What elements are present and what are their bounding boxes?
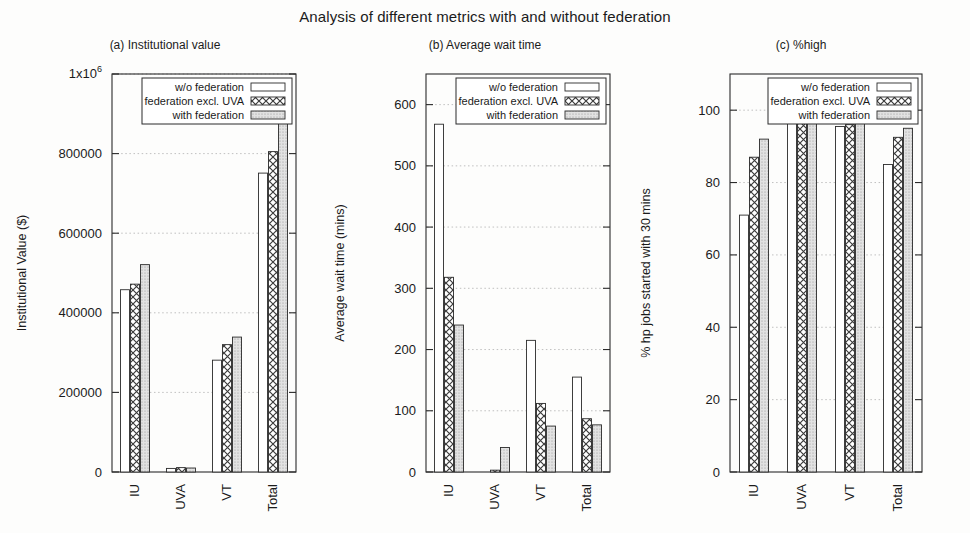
bar [141,265,150,472]
bar [740,215,749,472]
legend-swatch [565,111,599,119]
x-tick-label: UVA [487,484,502,510]
x-tick-label: IU [441,484,456,497]
legend-swatch [877,97,911,105]
legend-swatch [251,83,285,91]
bar [213,360,222,472]
bar [856,119,865,472]
bar [884,164,893,472]
chart-svg-c: 020406080100% hp jobs started with 30 mi… [632,38,970,533]
legend-label: federation excl. UVA [459,95,559,107]
chart-panel-a: (a) Institutional value 0200000400000600… [0,38,330,533]
bar [846,125,855,472]
y-axis-label: % hp jobs started with 30 mins [639,188,653,358]
bar [527,340,536,472]
legend-label: w/o federation [800,81,870,93]
x-tick-label: Total [579,484,594,512]
y-tick-label: 200000 [59,385,102,400]
y-tick-label: 20 [706,392,720,407]
chart-svg-a: 02000004000006000008000001x106Institutio… [0,38,330,533]
x-tick-label: UVA [794,484,809,510]
bars [121,117,288,472]
y-tick-label: 400000 [59,305,102,320]
bar [233,337,242,472]
y-tick-label: 0 [95,465,102,480]
y-tick-label: 80 [706,175,720,190]
bar [788,110,797,472]
x-tick-label: VT [842,484,857,501]
bar [435,124,444,472]
legend-label: with federation [171,109,244,121]
legend-label: with federation [797,109,870,121]
y-axis-label: Institutional Value ($) [15,215,29,332]
bar [537,403,546,472]
chart-svg-b: 0100200300400500600Average wait time (mi… [320,38,650,533]
y-tick-label: 0 [409,465,416,480]
legend-label: w/o federation [488,81,558,93]
x-tick-label: IU [746,484,761,497]
y-tick-label: 0 [713,465,720,480]
x-tick-label: UVA [173,484,188,510]
legend: w/o federationfederation excl. UVAwith f… [456,78,606,124]
y-tick-label: 500 [394,158,416,173]
legend-swatch [565,97,599,105]
x-tick-label: Total [890,484,905,512]
y-tick-label: 40 [706,320,720,335]
chart-panel-c: (c) %high 020406080100% hp jobs started … [632,38,970,533]
legend-swatch [251,111,285,119]
legend: w/o federationfederation excl. UVAwith f… [142,78,292,124]
x-tick-label: VT [219,484,234,501]
bar [279,117,288,472]
bar [501,448,510,472]
y-tick-label: 200 [394,342,416,357]
bar [131,284,140,472]
y-tick-label: 100 [698,103,720,118]
bar [894,137,903,472]
legend-swatch [565,83,599,91]
bar [223,345,232,472]
chart-panel-b: (b) Average wait time 010020030040050060… [320,38,650,533]
bar [177,468,186,472]
y-tick-label: 100 [394,403,416,418]
legend-label: w/o federation [174,81,244,93]
bar [760,139,769,472]
legend-swatch [877,83,911,91]
axis: 020406080100% hp jobs started with 30 mi… [639,74,922,511]
figure-title: Analysis of different metrics with and w… [0,8,970,25]
figure-root: Analysis of different metrics with and w… [0,0,970,533]
x-tick-label: Total [265,484,280,512]
bar [445,277,454,472]
bar [121,290,130,472]
legend-label: with federation [485,109,558,121]
bars [740,110,913,472]
bar [269,152,278,472]
bar [904,128,913,472]
bar [583,419,592,472]
axis: 02000004000006000008000001x106Institutio… [15,64,296,511]
bar [836,126,845,472]
legend-label: federation excl. UVA [771,95,871,107]
axis: 0100200300400500600Average wait time (mi… [333,74,610,511]
bar [593,425,602,472]
bar [547,426,556,472]
y-tick-label: 800000 [59,146,102,161]
y-tick-label: 400 [394,220,416,235]
bars [435,124,602,472]
y-tick-label: 300 [394,281,416,296]
bar [573,377,582,472]
y-axis-label: Average wait time (mins) [333,204,347,341]
bar [798,110,807,472]
y-tick-label: 1x106 [69,64,102,81]
bar [187,468,196,472]
y-tick-label: 600000 [59,226,102,241]
x-tick-label: IU [127,484,142,497]
legend-label: federation excl. UVA [145,95,245,107]
x-tick-label: VT [533,484,548,501]
legend-swatch [251,97,285,105]
y-tick-label: 60 [706,247,720,262]
bar [167,468,176,472]
y-tick-label: 600 [394,97,416,112]
bar [259,173,268,472]
bar [808,114,817,472]
legend-swatch [877,111,911,119]
